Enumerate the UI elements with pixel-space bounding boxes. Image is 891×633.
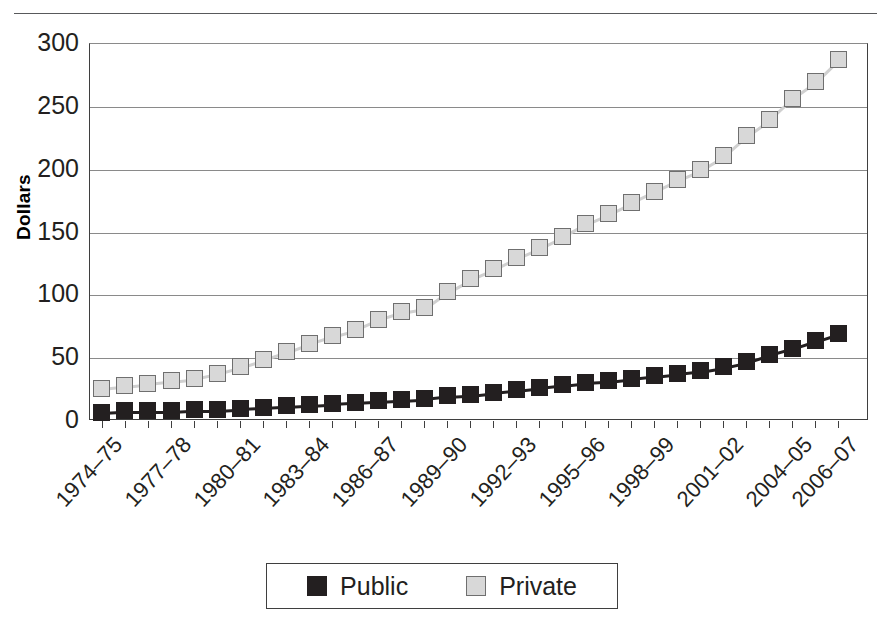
x-axis-tick bbox=[585, 421, 586, 428]
gridline bbox=[90, 170, 867, 171]
x-axis-tick bbox=[401, 421, 402, 428]
data-point-private bbox=[209, 365, 226, 382]
x-axis-tick bbox=[332, 421, 333, 428]
data-point-public bbox=[830, 325, 847, 342]
y-axis-tick-label: 200 bbox=[9, 156, 79, 181]
data-point-public bbox=[301, 396, 318, 413]
gridline bbox=[90, 295, 867, 296]
plot-area bbox=[89, 43, 868, 420]
data-point-public bbox=[646, 367, 663, 384]
x-axis-tick bbox=[378, 421, 379, 428]
x-axis-tick bbox=[424, 421, 425, 428]
x-axis-tick bbox=[309, 421, 310, 428]
x-axis-tick bbox=[447, 421, 448, 428]
data-point-private bbox=[554, 228, 571, 245]
data-point-private bbox=[301, 335, 318, 352]
x-axis-tick bbox=[171, 421, 172, 428]
legend-label-public: Public bbox=[340, 572, 408, 601]
x-axis-tick bbox=[562, 421, 563, 428]
chart-legend: Public Private bbox=[266, 563, 618, 609]
data-point-public bbox=[600, 372, 617, 389]
x-axis-tick bbox=[194, 421, 195, 428]
x-axis-tick bbox=[263, 421, 264, 428]
data-point-private bbox=[324, 327, 341, 344]
data-point-private bbox=[646, 183, 663, 200]
filled-square-icon bbox=[307, 576, 327, 596]
data-point-private bbox=[232, 358, 249, 375]
data-point-private bbox=[508, 249, 525, 266]
data-point-public bbox=[784, 340, 801, 357]
data-point-public bbox=[807, 332, 824, 349]
data-point-public bbox=[370, 392, 387, 409]
data-point-public bbox=[116, 402, 133, 419]
x-axis-tick bbox=[792, 421, 793, 428]
data-point-public bbox=[462, 386, 479, 403]
data-point-private bbox=[439, 283, 456, 300]
data-point-public bbox=[485, 384, 502, 401]
data-point-private bbox=[600, 205, 617, 222]
x-axis-tick bbox=[700, 421, 701, 428]
x-axis-tick bbox=[677, 421, 678, 428]
data-point-private bbox=[370, 311, 387, 328]
data-point-private bbox=[761, 111, 778, 128]
data-point-public bbox=[761, 346, 778, 363]
data-point-public bbox=[416, 390, 433, 407]
x-axis-tick bbox=[539, 421, 540, 428]
data-point-public bbox=[139, 402, 156, 419]
y-axis-tick-label: 0 bbox=[9, 407, 79, 432]
y-axis-tick-label: 50 bbox=[9, 344, 79, 369]
data-point-public bbox=[669, 365, 686, 382]
legend-label-private: Private bbox=[499, 572, 577, 601]
legend-item-private: Private bbox=[466, 572, 577, 601]
data-point-public bbox=[439, 387, 456, 404]
x-axis-tick bbox=[838, 421, 839, 428]
data-point-private bbox=[186, 370, 203, 387]
x-axis-tick bbox=[217, 421, 218, 428]
data-point-private bbox=[93, 380, 110, 397]
y-axis-tick-label: 250 bbox=[9, 93, 79, 118]
data-point-private bbox=[278, 343, 295, 360]
data-point-private bbox=[830, 51, 847, 68]
data-point-public bbox=[255, 399, 272, 416]
x-axis-tick bbox=[654, 421, 655, 428]
gridline bbox=[90, 107, 867, 108]
data-point-public bbox=[163, 402, 180, 419]
x-axis-tick bbox=[608, 421, 609, 428]
data-point-private bbox=[807, 73, 824, 90]
data-point-private bbox=[784, 90, 801, 107]
gridline bbox=[90, 233, 867, 234]
data-point-public bbox=[186, 401, 203, 418]
data-point-public bbox=[623, 370, 640, 387]
data-point-private bbox=[163, 372, 180, 389]
x-axis-tick bbox=[815, 421, 816, 428]
data-point-private bbox=[577, 215, 594, 232]
y-axis-tick-label: 300 bbox=[9, 30, 79, 55]
data-point-public bbox=[508, 381, 525, 398]
data-point-private bbox=[393, 303, 410, 320]
legend-item-public: Public bbox=[307, 572, 408, 601]
x-axis-tick bbox=[148, 421, 149, 428]
data-point-public bbox=[232, 400, 249, 417]
data-point-private bbox=[623, 194, 640, 211]
chart-figure: Dollars 050100150200250300 1974–751977–7… bbox=[0, 0, 891, 633]
data-point-private bbox=[116, 377, 133, 394]
data-point-public bbox=[715, 358, 732, 375]
data-point-private bbox=[531, 239, 548, 256]
x-axis-tick bbox=[286, 421, 287, 428]
data-point-private bbox=[139, 375, 156, 392]
x-axis-tick bbox=[240, 421, 241, 428]
data-point-private bbox=[255, 351, 272, 368]
data-point-public bbox=[738, 353, 755, 370]
x-axis-tick bbox=[746, 421, 747, 428]
data-point-public bbox=[93, 404, 110, 421]
data-point-public bbox=[278, 397, 295, 414]
data-point-public bbox=[531, 379, 548, 396]
x-axis-tick bbox=[355, 421, 356, 428]
data-point-private bbox=[715, 147, 732, 164]
header-divider bbox=[14, 13, 877, 14]
x-axis-tick bbox=[516, 421, 517, 428]
x-axis-tick bbox=[631, 421, 632, 428]
data-point-private bbox=[738, 127, 755, 144]
data-point-public bbox=[692, 362, 709, 379]
data-point-public bbox=[324, 395, 341, 412]
